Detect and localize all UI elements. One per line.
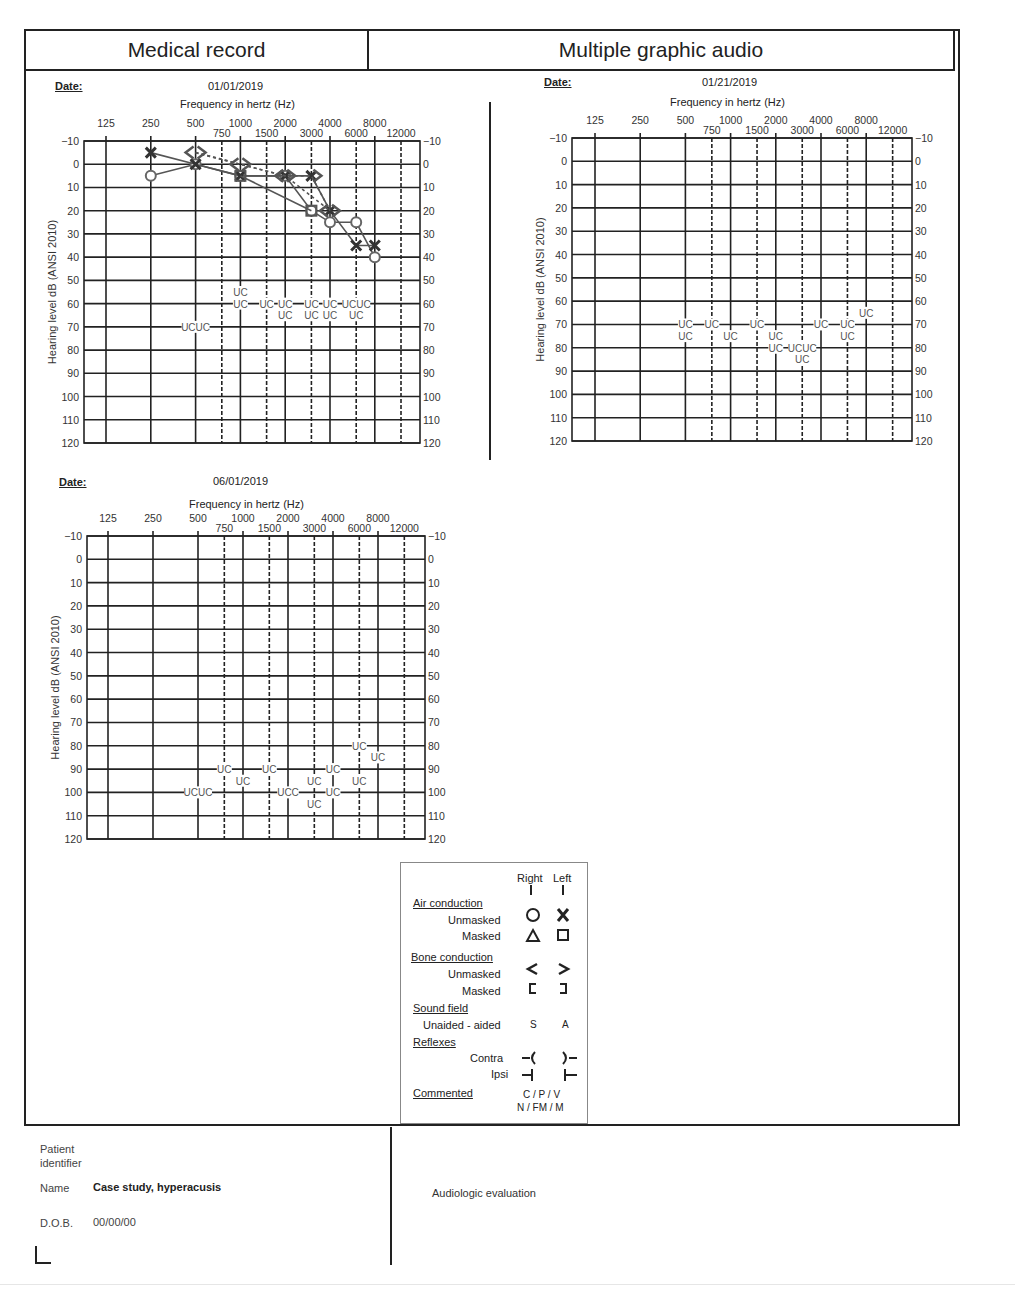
patient-name: Case study, hyperacusis: [93, 1181, 221, 1193]
legend-sf-a: A: [562, 1019, 569, 1030]
svg-text:10: 10: [67, 181, 79, 193]
svg-text:100: 100: [423, 391, 441, 403]
svg-text:−10: −10: [423, 135, 441, 147]
svg-text:−10: −10: [549, 132, 567, 144]
svg-text:20: 20: [423, 205, 435, 217]
svg-text:UC: UC: [352, 776, 366, 787]
svg-text:UC: UC: [307, 776, 321, 787]
svg-text:120: 120: [64, 833, 82, 845]
svg-text:UC: UC: [233, 299, 247, 310]
svg-text:UC: UC: [304, 299, 318, 310]
svg-text:0: 0: [73, 158, 79, 170]
svg-text:0: 0: [428, 553, 434, 565]
patient-identifier-label-2: identifier: [40, 1157, 82, 1169]
svg-text:110: 110: [62, 414, 79, 426]
svg-text:70: 70: [70, 716, 82, 728]
svg-text:80: 80: [423, 344, 435, 356]
svg-text:30: 30: [428, 623, 440, 635]
air-symbols-icon: [521, 905, 581, 945]
patient-identifier-label-1: Patient: [40, 1143, 74, 1155]
svg-text:80: 80: [915, 342, 927, 354]
svg-text:UC: UC: [352, 741, 366, 752]
svg-text:UC: UC: [723, 331, 737, 342]
right-tick-icon: [530, 885, 532, 895]
svg-text:125: 125: [97, 117, 115, 129]
svg-text:750: 750: [703, 124, 721, 136]
svg-text:−10: −10: [61, 135, 79, 147]
audiogram-3: −10−100010102020303040405050606070708080…: [49, 512, 446, 845]
legend-contra: Contra: [470, 1052, 503, 1064]
svg-text:120: 120: [423, 437, 441, 449]
svg-text:20: 20: [67, 205, 79, 217]
svg-text:Hearing level dB (ANSI 2010): Hearing level dB (ANSI 2010): [534, 217, 546, 361]
svg-text:UCUC: UCUC: [788, 343, 817, 354]
svg-text:80: 80: [555, 342, 567, 354]
svg-text:500: 500: [187, 117, 205, 129]
left-tick-icon: [562, 885, 564, 895]
svg-text:60: 60: [70, 693, 82, 705]
svg-text:UC: UC: [262, 764, 276, 775]
svg-text:12000: 12000: [390, 522, 419, 534]
svg-text:UC: UC: [795, 354, 809, 365]
svg-text:UC: UC: [307, 799, 321, 810]
svg-text:0: 0: [76, 553, 82, 565]
legend-commented: Commented: [413, 1087, 473, 1099]
ipsi-right-icon: [522, 1069, 532, 1081]
greater-than-icon: [559, 964, 568, 974]
square-icon: [558, 930, 568, 940]
svg-text:40: 40: [915, 249, 927, 261]
svg-text:10: 10: [555, 179, 567, 191]
svg-text:100: 100: [428, 786, 446, 798]
svg-text:0: 0: [423, 158, 429, 170]
svg-text:Hearing level dB (ANSI 2010): Hearing level dB (ANSI 2010): [49, 615, 61, 759]
svg-text:20: 20: [70, 600, 82, 612]
bone-symbols-icon: [521, 959, 581, 999]
legend-col-right: Right: [517, 872, 543, 884]
legend-bone-masked: Masked: [462, 985, 501, 997]
svg-text:500: 500: [189, 512, 207, 524]
svg-text:90: 90: [428, 763, 440, 775]
svg-text:UC: UC: [678, 319, 692, 330]
svg-text:1000: 1000: [229, 117, 253, 129]
svg-text:40: 40: [67, 251, 79, 263]
svg-text:250: 250: [142, 117, 160, 129]
svg-text:90: 90: [70, 763, 82, 775]
svg-text:6000: 6000: [345, 127, 369, 139]
svg-text:3000: 3000: [303, 522, 327, 534]
legend-bone-conduction: Bone conduction: [411, 951, 493, 963]
svg-text:UCUC: UCUC: [181, 322, 210, 333]
less-than-icon: [528, 964, 537, 974]
svg-text:10: 10: [915, 179, 927, 191]
svg-text:12000: 12000: [386, 127, 415, 139]
svg-text:UC: UC: [750, 319, 764, 330]
svg-text:110: 110: [423, 414, 440, 426]
svg-text:1500: 1500: [258, 522, 282, 534]
svg-text:UC: UC: [349, 310, 363, 321]
svg-text:UC: UC: [217, 764, 231, 775]
svg-text:10: 10: [428, 577, 440, 589]
svg-text:30: 30: [70, 623, 82, 635]
audiogram-1: −10−100010102020303040405050606070708080…: [46, 117, 441, 449]
svg-text:UC: UC: [323, 299, 337, 310]
svg-text:UC: UC: [233, 287, 247, 298]
svg-text:30: 30: [915, 225, 927, 237]
contra-left-icon: [563, 1052, 577, 1064]
svg-text:10: 10: [423, 181, 435, 193]
svg-text:100: 100: [64, 786, 82, 798]
svg-text:30: 30: [67, 228, 79, 240]
triangle-icon: [527, 930, 539, 941]
legend-air-conduction: Air conduction: [413, 897, 483, 909]
svg-text:120: 120: [549, 435, 567, 447]
svg-text:20: 20: [555, 202, 567, 214]
svg-text:500: 500: [677, 114, 695, 126]
svg-text:6000: 6000: [348, 522, 372, 534]
svg-text:40: 40: [555, 249, 567, 261]
svg-text:UC: UC: [769, 343, 783, 354]
svg-text:100: 100: [549, 388, 567, 400]
name-label: Name: [40, 1182, 69, 1194]
svg-text:90: 90: [423, 367, 435, 379]
svg-text:90: 90: [555, 365, 567, 377]
svg-text:100: 100: [61, 391, 79, 403]
svg-text:UC: UC: [278, 299, 292, 310]
svg-text:UC: UC: [236, 776, 250, 787]
